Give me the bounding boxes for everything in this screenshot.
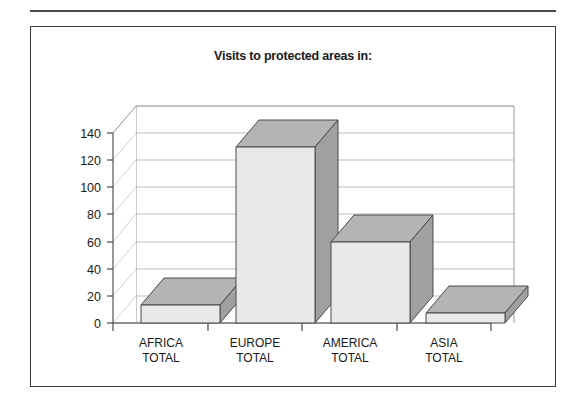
- x-label-asia-line2: TOTAL: [425, 351, 463, 365]
- y-tick-label-140: 140: [80, 127, 101, 141]
- x-axis-labels: AFRICA TOTAL EUROPE TOTAL AMERICA TOTAL …: [139, 336, 463, 365]
- y-tick-label-0: 0: [94, 317, 101, 331]
- y-tick-label-20: 20: [87, 290, 101, 304]
- x-label-europe-line2: TOTAL: [236, 351, 274, 365]
- bar-europe-total[interactable]: [236, 120, 338, 323]
- bar-america-total[interactable]: [331, 215, 433, 323]
- x-axis-ticks: [113, 323, 491, 331]
- x-label-europe-line1: EUROPE: [230, 336, 281, 350]
- x-label-asia-line1: ASIA: [430, 336, 457, 350]
- bar-chart-3d: 140 120 100 80 60 40 20 0: [31, 27, 555, 386]
- y-axis: 140 120 100 80 60 40 20 0: [80, 127, 113, 331]
- plot-side-wall: [113, 106, 136, 323]
- y-tick-label-120: 120: [80, 154, 101, 168]
- y-tick-label-80: 80: [87, 208, 101, 222]
- x-label-america-line1: AMERICA: [323, 336, 378, 350]
- y-tick-label-60: 60: [87, 236, 101, 250]
- page-root: Visits to protected areas in:: [0, 0, 586, 412]
- figure-frame: Visits to protected areas in:: [30, 26, 556, 387]
- x-label-america-line2: TOTAL: [331, 351, 369, 365]
- x-label-africa-line2: TOTAL: [142, 351, 180, 365]
- y-tick-label-40: 40: [87, 263, 101, 277]
- x-label-africa-line1: AFRICA: [139, 336, 183, 350]
- top-horizontal-rule: [30, 10, 556, 12]
- y-tick-label-100: 100: [80, 181, 101, 195]
